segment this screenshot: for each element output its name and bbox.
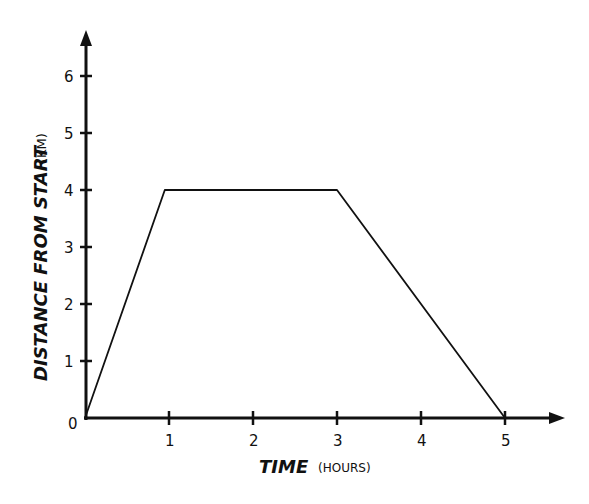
y-axis-arrow-icon — [80, 30, 92, 46]
x-axis — [84, 412, 565, 424]
x-axis-title: TIME (HOURS) — [259, 456, 371, 477]
x-tick-label: 1 — [165, 432, 175, 450]
x-axis-arrow-icon — [549, 412, 565, 424]
y-axis-label: DISTANCE FROM START — [30, 144, 51, 381]
y-tick-label: 5 — [64, 125, 74, 143]
y-tick-label: 6 — [64, 68, 74, 86]
x-axis-label: TIME — [259, 456, 309, 477]
y-tick-label: 2 — [64, 296, 74, 314]
x-tick-label: 5 — [501, 432, 511, 450]
y-axis-unit: (KM) — [34, 133, 49, 163]
x-axis-unit: (HOURS) — [318, 461, 371, 475]
x-tick-label: 2 — [249, 432, 259, 450]
y-ticks: 123456 — [64, 68, 92, 371]
x-tick-label: 3 — [333, 432, 343, 450]
x-tick-label: 4 — [417, 432, 427, 450]
origin-label: 0 — [68, 415, 78, 433]
y-tick-label: 3 — [64, 239, 74, 257]
distance-line — [85, 190, 505, 418]
y-axis-title: DISTANCE FROM START (KM) — [30, 133, 51, 381]
y-tick-label: 4 — [64, 182, 74, 200]
distance-time-chart: 123456 12345 0 TIME (HOURS) DISTANCE FRO… — [0, 0, 589, 504]
y-tick-label: 1 — [64, 353, 74, 371]
